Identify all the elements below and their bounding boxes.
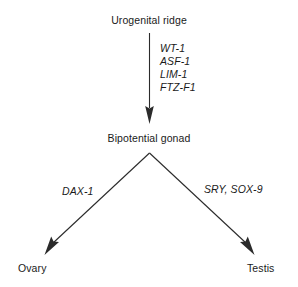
gene-list-upper: WT-1 ASF-1 LIM-1 FTZ-F1 [160, 42, 196, 94]
gene-label-dax1-branch: DAX-1 [62, 185, 93, 198]
gene-label-ftzf1: FTZ-F1 [160, 81, 196, 94]
node-testis: Testis [247, 262, 274, 274]
gene-label-lim1: LIM-1 [160, 68, 196, 81]
gene-label-wt1: WT-1 [160, 42, 196, 55]
gene-label-asf1: ASF-1 [160, 55, 196, 68]
arrowhead-vertical [145, 106, 154, 124]
node-bipotential-gonad: Bipotential gonad [0, 132, 298, 144]
gene-label-sry-sox9-branch: SRY, SOX-9 [204, 183, 263, 196]
node-ovary: Ovary [18, 262, 47, 274]
arrow-shaft-right [150, 153, 247, 243]
gonad-differentiation-diagram: Urogenital ridge WT-1 ASF-1 LIM-1 FTZ-F1… [0, 0, 298, 287]
arrow-shaft-left [53, 153, 150, 243]
